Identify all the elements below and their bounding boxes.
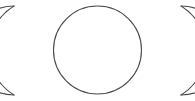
- left-crescent-inner-arc: [0, 6, 14, 95]
- triple-moon-symbol: [0, 0, 195, 101]
- center-full-moon-circle: [54, 6, 142, 94]
- right-crescent: [181, 6, 195, 95]
- right-crescent-outer-arc: [181, 6, 195, 95]
- left-crescent: [0, 6, 14, 95]
- image-canvas: [0, 0, 195, 101]
- right-crescent-inner-arc: [181, 6, 195, 95]
- left-crescent-outer-arc: [0, 6, 14, 95]
- center-circle-group: [54, 6, 142, 94]
